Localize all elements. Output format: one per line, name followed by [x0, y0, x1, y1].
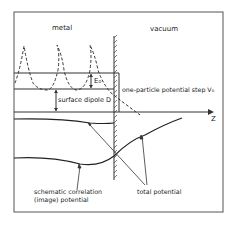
vacuum-label: vacuum: [150, 26, 178, 33]
correlation-potential-curve: [14, 118, 182, 165]
surface-dipole-label: surface dipole D: [58, 97, 111, 104]
surface-wall: [114, 35, 117, 180]
pointer-lines: [77, 123, 147, 190]
e0-label: E₀: [94, 78, 101, 85]
z-axis-label: Z: [211, 116, 216, 123]
potential-step-label: one-particle potential step V₀: [122, 87, 214, 93]
correlation-label-line1: schematic correlation: [34, 189, 102, 195]
total-potential-label: total potential: [137, 189, 181, 195]
periodic-ion-potential: [15, 45, 140, 115]
e0-arrow: [89, 74, 93, 88]
inner-potential-curve: [14, 119, 114, 124]
metal-label: metal: [52, 25, 72, 32]
correlation-label-line2: (image) potential: [34, 197, 89, 203]
